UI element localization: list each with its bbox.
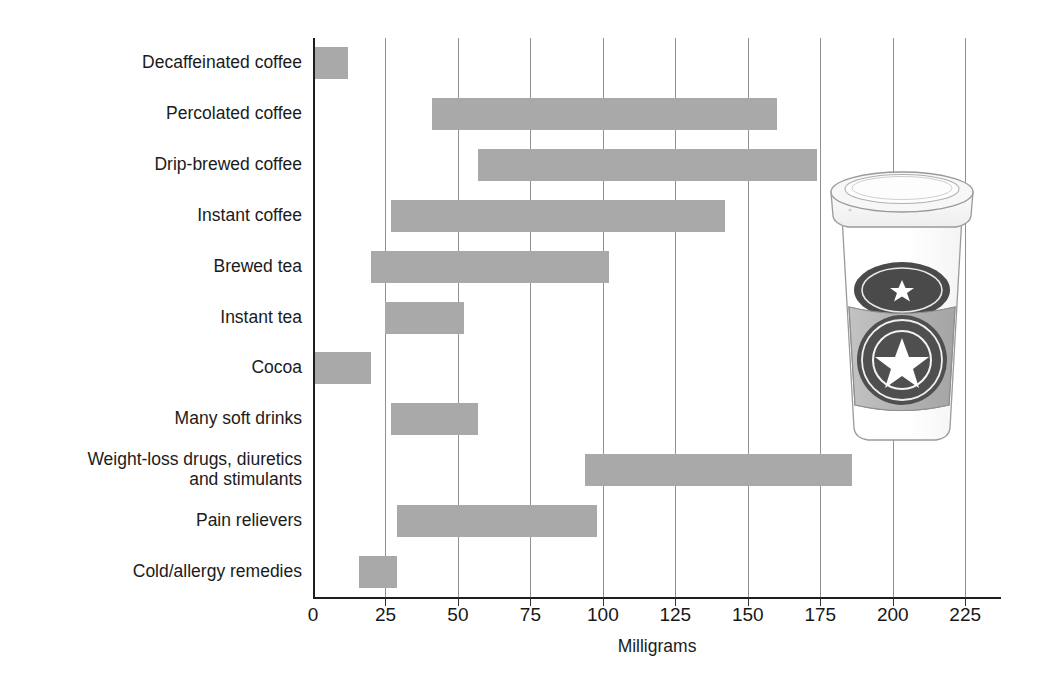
x-axis-title: Milligrams <box>313 636 1001 657</box>
bar-range <box>391 403 478 435</box>
x-tick-label: 175 <box>785 604 855 626</box>
category-label: Percolated coffee <box>12 104 302 124</box>
x-tick-label: 200 <box>858 604 928 626</box>
category-label: Pain relievers <box>12 511 302 531</box>
gridline-225 <box>965 38 966 597</box>
category-label: Cocoa <box>12 358 302 378</box>
bar-range <box>432 98 777 130</box>
gridline-200 <box>893 38 894 597</box>
category-label: Drip-brewed coffee <box>12 155 302 175</box>
x-tick-label: 125 <box>640 604 710 626</box>
bar-range <box>313 352 371 384</box>
gridline-175 <box>820 38 821 597</box>
x-tick-label: 150 <box>713 604 783 626</box>
bar-range <box>385 302 463 334</box>
x-tick-label: 50 <box>423 604 493 626</box>
x-tick-label: 0 <box>278 604 348 626</box>
caffeine-range-chart: Decaffeinated coffeePercolated coffeeDri… <box>0 0 1050 695</box>
category-label: Many soft drinks <box>12 409 302 429</box>
bar-range <box>313 47 348 79</box>
x-tick-label: 225 <box>930 604 1000 626</box>
category-label: Cold/allergy remedies <box>12 562 302 582</box>
category-label: Decaffeinated coffee <box>12 53 302 73</box>
bar-range <box>585 454 852 486</box>
bar-range <box>359 556 397 588</box>
x-tick-label: 25 <box>350 604 420 626</box>
category-label: Brewed tea <box>12 257 302 277</box>
category-label: Weight-loss drugs, diuretics and stimula… <box>12 450 302 490</box>
bar-range <box>391 200 724 232</box>
x-tick-label: 75 <box>495 604 565 626</box>
bar-range <box>478 149 817 181</box>
bar-range <box>371 251 609 283</box>
x-axis-line <box>313 597 1001 599</box>
category-label: Instant tea <box>12 308 302 328</box>
x-tick-label: 100 <box>568 604 638 626</box>
category-label: Instant coffee <box>12 206 302 226</box>
plot-area <box>313 38 1000 597</box>
bar-range <box>397 505 597 537</box>
y-axis-line <box>313 38 315 598</box>
